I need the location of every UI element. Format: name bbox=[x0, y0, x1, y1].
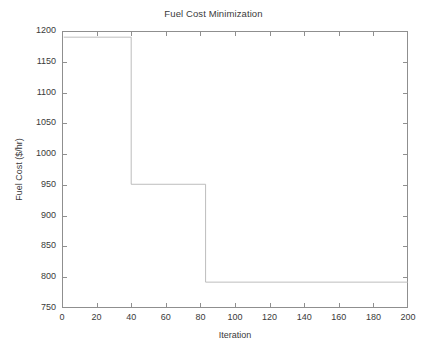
data-series-line bbox=[64, 37, 408, 282]
y-tick-label: 900 bbox=[16, 210, 56, 220]
data-series-group bbox=[64, 37, 408, 282]
y-tick-label: 1000 bbox=[16, 148, 56, 158]
axes-and-series bbox=[62, 31, 408, 308]
y-tick-label: 1200 bbox=[16, 25, 56, 35]
y-tick-label: 800 bbox=[16, 271, 56, 281]
chart-title: Fuel Cost Minimization bbox=[0, 8, 427, 19]
plot-area bbox=[62, 31, 408, 308]
y-tick-label: 750 bbox=[16, 302, 56, 312]
y-tick-label: 1100 bbox=[16, 87, 56, 97]
y-tick-label: 950 bbox=[16, 179, 56, 189]
y-tick-label: 1050 bbox=[16, 117, 56, 127]
tick-marks bbox=[63, 32, 409, 309]
axes-box bbox=[63, 32, 408, 308]
y-tick-label: 1150 bbox=[16, 56, 56, 66]
figure-canvas: Fuel Cost Minimization Fuel Cost ($/hr) … bbox=[0, 0, 427, 354]
y-tick-label: 850 bbox=[16, 240, 56, 250]
x-axis-label: Iteration bbox=[62, 330, 408, 340]
y-axis-label: Fuel Cost ($/hr) bbox=[14, 31, 24, 308]
x-tick-label: 200 bbox=[388, 312, 427, 322]
